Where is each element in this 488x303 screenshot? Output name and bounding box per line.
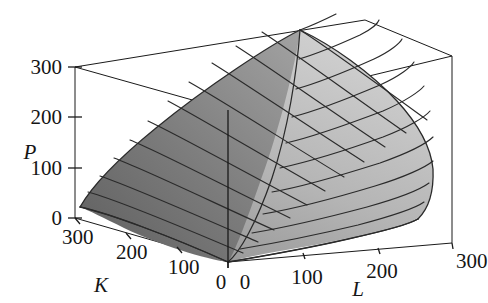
p-axis-title: P (23, 140, 37, 164)
l-tick-label-200: 200 (366, 259, 398, 283)
p-tick-label-200: 200 (31, 105, 63, 129)
k-tick-label-200: 200 (116, 240, 148, 264)
l-tick-label-300: 300 (456, 249, 488, 273)
k-tick-label-300: 300 (62, 225, 94, 249)
k-tick-label-100: 100 (168, 255, 200, 279)
l-axis-title: L (351, 277, 364, 301)
l-tick-label-100: 100 (291, 265, 323, 289)
k-tick-label-0: 0 (216, 270, 227, 294)
p-tick-label-300: 300 (31, 55, 63, 79)
k-axis-title: K (93, 273, 109, 297)
plot-canvas: 0 100 200 300 300 200 100 0 0 100 200 30… (0, 0, 488, 303)
surface-body (80, 30, 433, 262)
p-tick-label-0: 0 (52, 206, 63, 230)
surface-plot-figure: 0 100 200 300 300 200 100 0 0 100 200 30… (0, 0, 488, 303)
l-tick-label-0: 0 (240, 270, 251, 294)
